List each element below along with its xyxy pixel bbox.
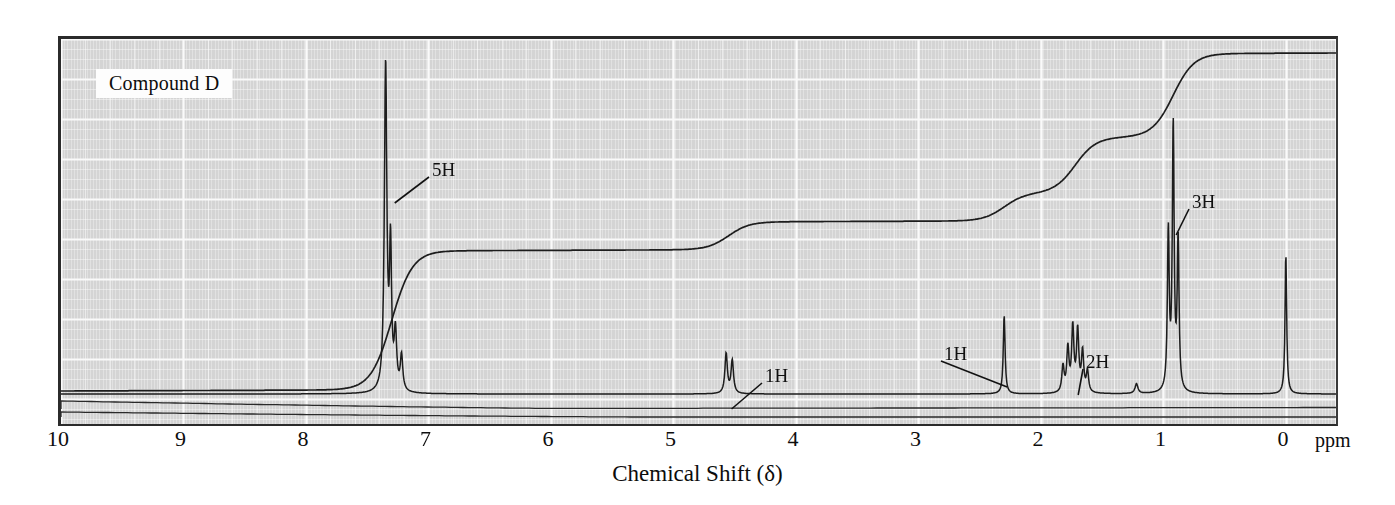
integration-curve xyxy=(61,53,1338,391)
peak-annotation-3h-4: 3H xyxy=(1192,192,1215,211)
peak-annotation-5h-0: 5H xyxy=(432,160,455,179)
peak-annotation-2h-3: 2H xyxy=(1086,352,1109,371)
x-tick-5: 5 xyxy=(665,428,676,450)
x-tick-4: 4 xyxy=(787,428,798,450)
x-tick-3: 3 xyxy=(910,428,921,450)
leader-line xyxy=(1078,369,1083,395)
x-tick-8: 8 xyxy=(297,428,308,450)
leader-line xyxy=(941,361,1007,387)
leader-line xyxy=(1176,209,1189,235)
x-axis-title: Chemical Shift (δ) xyxy=(0,462,1395,485)
x-axis-tick-labels: 109876543210ppm xyxy=(0,428,1395,460)
baseline-drift-line xyxy=(61,401,1338,409)
peak-annotation-1h-1: 1H xyxy=(765,366,788,385)
peak-trace xyxy=(61,60,1338,394)
x-tick-2: 2 xyxy=(1032,428,1043,450)
x-tick-10: 10 xyxy=(47,428,69,450)
spectrum-plot-area xyxy=(58,36,1338,426)
spectrum-trace xyxy=(61,39,1338,426)
baseline-drift-line-secondary xyxy=(61,412,1338,417)
compound-label: Compound D xyxy=(96,69,232,98)
x-tick-9: 9 xyxy=(175,428,186,450)
x-tick-7: 7 xyxy=(420,428,431,450)
peak-annotation-1h-2: 1H xyxy=(944,344,967,363)
x-tick-1: 1 xyxy=(1155,428,1166,450)
annotation-leader-lines xyxy=(395,177,1189,409)
x-axis-unit-label: ppm xyxy=(1315,430,1351,450)
x-tick-6: 6 xyxy=(542,428,553,450)
nmr-figure: Compound D 5H1H1H2H3H 109876543210ppm Ch… xyxy=(0,0,1395,505)
leader-line xyxy=(395,177,429,203)
x-tick-0: 0 xyxy=(1277,428,1288,450)
